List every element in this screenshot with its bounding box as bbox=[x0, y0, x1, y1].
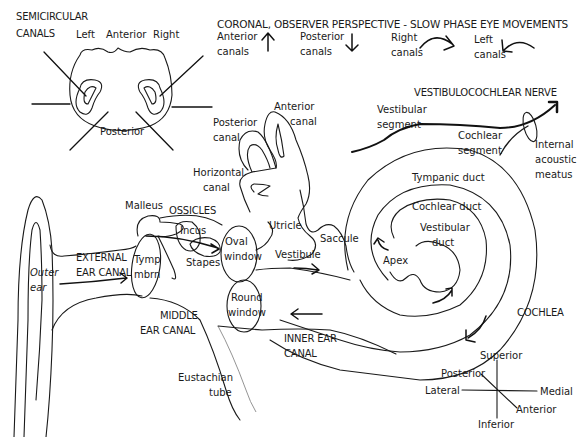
label-posterior-bottom: Posterior bbox=[100, 126, 145, 137]
ossicle-chain-arrow-icon bbox=[146, 236, 219, 253]
tympanic-duct-label: Tympanic duct bbox=[411, 172, 485, 183]
cochlear-segment-line2: segment bbox=[458, 145, 502, 156]
right-labyrinth bbox=[138, 80, 164, 115]
apex-arrow-icon bbox=[374, 238, 388, 250]
inner-ear-canal-line2: CANAL bbox=[284, 348, 317, 359]
eustachian-tube-line1: Eustachian bbox=[178, 372, 233, 383]
round-window bbox=[227, 280, 261, 332]
ear-anatomy-diagram: SEMICIRCULAR CANALS Left Anterior Right … bbox=[0, 0, 584, 437]
outer-ear: Outer ear EXTERNAL EAR CANAL bbox=[14, 197, 142, 437]
inner-canal-left-arrow-icon bbox=[291, 309, 322, 319]
left-labyrinth bbox=[76, 80, 102, 115]
oval-window-line2: window bbox=[224, 251, 262, 262]
down-arrow-icon bbox=[346, 34, 358, 51]
internal-acoustic-meatus-line3: meatus bbox=[535, 169, 573, 180]
compass-superior: Superior bbox=[480, 350, 523, 361]
pinna-inner bbox=[24, 223, 42, 437]
slow-phase-panel: CORONAL, OBSERVER PERSPECTIVE - SLOW PHA… bbox=[217, 18, 569, 60]
label-left: Left bbox=[76, 29, 95, 40]
label-right: Right bbox=[153, 29, 179, 40]
ossicles-label: OSSICLES bbox=[169, 205, 216, 216]
external-ear-canal-line1: EXTERNAL bbox=[76, 252, 127, 263]
cochlear-nerve-branch bbox=[500, 126, 528, 155]
compass-inferior: Inferior bbox=[478, 419, 515, 430]
semicircular-heading-line1: SEMICIRCULAR bbox=[16, 11, 88, 22]
semicircular-heading-line2: CANALS bbox=[16, 28, 55, 39]
orientation-compass: Superior Inferior Lateral Medial Posteri… bbox=[425, 350, 573, 430]
eustachian-tube-wall bbox=[218, 326, 256, 412]
round-window-line2: window bbox=[228, 307, 266, 318]
horizontal-canal-line1: Horizontal bbox=[193, 167, 244, 178]
anterior-canals-line2: canals bbox=[217, 46, 249, 57]
nerve-heading: VESTIBULOCOCHLEAR NERVE bbox=[414, 87, 557, 98]
stapes-label: Stapes bbox=[186, 257, 220, 268]
curved-left-arrow-icon bbox=[502, 40, 534, 52]
curved-right-arrow-icon bbox=[420, 36, 454, 50]
compass-anterior: Anterior bbox=[516, 404, 557, 415]
internal-acoustic-meatus-line1: Internal bbox=[535, 139, 574, 150]
apex-outline bbox=[390, 241, 460, 292]
tympanic-membrane bbox=[128, 232, 165, 299]
up-arrow-icon bbox=[262, 33, 274, 51]
malleus-label: Malleus bbox=[125, 200, 163, 211]
posterior-canals-line2: canals bbox=[300, 46, 332, 57]
utricle-label: Utricle bbox=[269, 220, 302, 231]
inner-ear-canal-upper-wall bbox=[256, 268, 350, 280]
internal-acoustic-meatus-line2: acoustic bbox=[535, 154, 577, 165]
apex-label: Apex bbox=[383, 255, 408, 266]
compass-medial: Medial bbox=[540, 386, 573, 397]
left-canals-line1: Left bbox=[474, 34, 493, 45]
labyrinth: Anterior canal Posterior canal Horizonta… bbox=[193, 101, 317, 260]
cochlea-label: COCHLEA bbox=[517, 307, 564, 318]
incus-label: Incus bbox=[180, 225, 206, 236]
horizontal-canal-line2: canal bbox=[203, 182, 230, 193]
anterior-canal-line2: canal bbox=[290, 116, 317, 127]
internal-acoustic-meatus-ring bbox=[520, 111, 539, 143]
semicircular-canals-panel: SEMICIRCULAR CANALS Left Anterior Right … bbox=[16, 11, 212, 150]
middle-ear-canal-line2: EAR CANAL bbox=[140, 325, 196, 336]
cochlea-up-arrow-icon bbox=[433, 288, 452, 303]
posterior-canals-line1: Posterior bbox=[300, 31, 345, 42]
outer-ear-line2: ear bbox=[30, 282, 47, 293]
right-canals-line2: canals bbox=[391, 47, 423, 58]
tymp-line1: Tymp bbox=[133, 254, 161, 265]
cochlear-segment-line1: Cochlear bbox=[458, 130, 503, 141]
tymp-line2: mbrn bbox=[134, 269, 160, 280]
vestibule-label: Vestibule bbox=[275, 249, 321, 260]
ear-canal-lower bbox=[52, 294, 142, 330]
right-canals-line1: Right bbox=[391, 32, 417, 43]
label-anterior-top: Anterior bbox=[106, 29, 147, 40]
left-anterior-plane-line bbox=[44, 52, 86, 96]
anterior-canal-line1: Anterior bbox=[274, 101, 315, 112]
pinna-outer bbox=[14, 197, 53, 437]
oval-window-line1: Oval bbox=[225, 236, 248, 247]
middle-ear-canal-line1: MIDDLE bbox=[160, 310, 198, 321]
eustachian-tube-line2: tube bbox=[209, 387, 232, 398]
vestibular-duct-line1: Vestibular bbox=[420, 222, 471, 233]
outer-ear-line1: Outer bbox=[30, 267, 59, 278]
inner-ear-canal: INNER EAR CANAL bbox=[284, 333, 337, 359]
posterior-canal-line1: Posterior bbox=[213, 117, 258, 128]
posterior-canal-line2: canal bbox=[213, 132, 240, 143]
cochlea-down-arrow-icon bbox=[466, 316, 486, 342]
saccule-label: Saccule bbox=[320, 233, 359, 244]
inner-ear-canal-line1: INNER EAR bbox=[284, 333, 337, 344]
vestibular-segment-line1: Vestibular bbox=[377, 104, 428, 115]
anterior-canals-line1: Anterior bbox=[217, 31, 258, 42]
compass-lateral: Lateral bbox=[425, 385, 460, 396]
cochlea: COCHLEA Tympanic duct Cochlear duct Vest… bbox=[270, 148, 564, 380]
round-window-line1: Round bbox=[231, 292, 263, 303]
slow-phase-heading: CORONAL, OBSERVER PERSPECTIVE - SLOW PHA… bbox=[217, 18, 569, 30]
left-canals-line2: canals bbox=[474, 49, 506, 60]
cochlea-duct-wall bbox=[360, 199, 486, 316]
compass-posterior: Posterior bbox=[441, 368, 486, 379]
head-outline bbox=[70, 48, 172, 131]
